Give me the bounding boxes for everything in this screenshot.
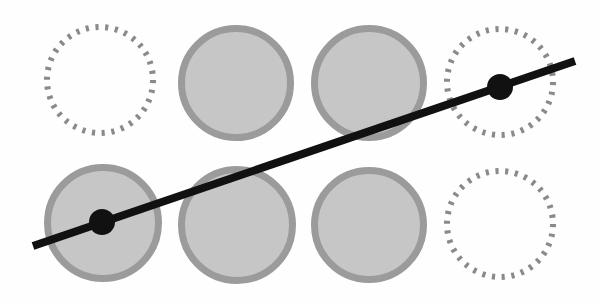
circles-line-diagram bbox=[0, 0, 600, 303]
point-2 bbox=[487, 74, 513, 100]
filled-circle-r2c3 bbox=[315, 171, 424, 280]
point-1 bbox=[89, 209, 115, 235]
filled-circle-r1c2 bbox=[182, 29, 291, 138]
